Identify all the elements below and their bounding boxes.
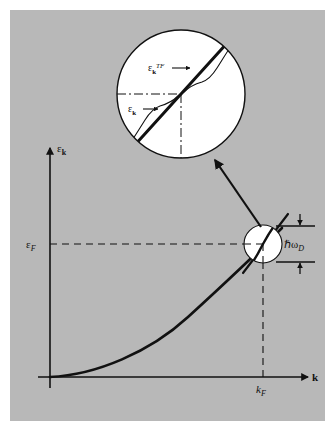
figure-root: ℏωD εk k εF kF εkTF [0,0,334,435]
x-axis-label: k [312,371,319,383]
dispersion-figure: ℏωD εk k εF kF εkTF [0,0,334,435]
